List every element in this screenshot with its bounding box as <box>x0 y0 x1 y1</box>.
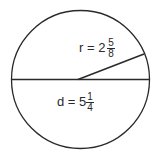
radius-label-text: r = 2 <box>79 41 105 54</box>
diameter-label-text: d = 5 <box>57 95 86 108</box>
radius-denominator: 8 <box>107 49 115 59</box>
circle-diagram <box>0 0 158 161</box>
radius-numerator: 5 <box>107 38 115 48</box>
diameter-denominator: 4 <box>86 103 94 113</box>
diameter-numerator: 1 <box>86 92 94 102</box>
